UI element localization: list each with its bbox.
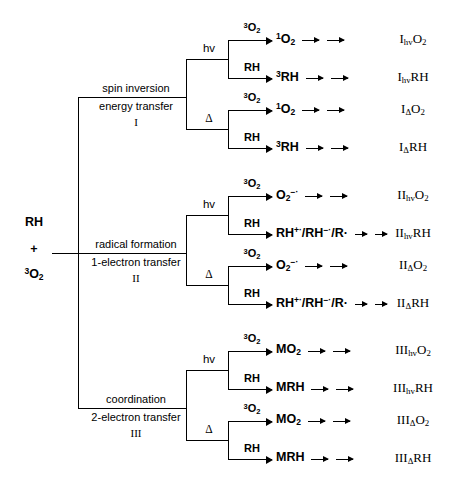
product-III-3: IIIΔRH bbox=[395, 450, 432, 466]
species-I-1: 3RH bbox=[276, 69, 299, 84]
reaction-tree-diagram: RH+3O2spin inversionenergy transferIhvΔ3… bbox=[0, 0, 463, 478]
transform-arrow-a-I-3 bbox=[306, 148, 323, 149]
product-I-3: IΔRH bbox=[399, 139, 427, 155]
species-I-3: 3RH bbox=[276, 139, 299, 154]
transform-arrow-b-I-0 bbox=[327, 40, 344, 41]
condition-hv-I: hv bbox=[203, 42, 215, 54]
reagent-oxygen-II-0: 3O2 bbox=[244, 177, 261, 191]
species-III-2: MO2 bbox=[276, 412, 301, 427]
reaction-arrow-III-0 bbox=[228, 351, 272, 352]
species-III-0: MO2 bbox=[276, 342, 301, 357]
branch-numeral-III: III bbox=[131, 426, 142, 441]
transform-arrow-b-I-3 bbox=[331, 148, 348, 149]
species-I-0: 1O2 bbox=[276, 31, 295, 47]
transform-arrow-b-III-3 bbox=[336, 459, 353, 460]
transform-arrow-a-III-3 bbox=[311, 459, 328, 460]
delta-connector-I bbox=[186, 129, 228, 130]
condition-split-line-I bbox=[186, 59, 187, 129]
reagent-split-line-hv-III bbox=[228, 351, 229, 389]
reaction-arrow-II-3 bbox=[228, 304, 272, 305]
reagent-substrate-II-1: RH bbox=[244, 217, 260, 229]
product-II-0: IIhvO2 bbox=[397, 187, 428, 203]
condition-hv-II: hv bbox=[203, 198, 215, 210]
condition-delta-III: Δ bbox=[205, 423, 212, 435]
species-I-2: 1O2 bbox=[276, 101, 295, 117]
reagent-oxygen-I-2: 3O2 bbox=[244, 91, 261, 105]
branch-name-line1-II: radical formation bbox=[95, 237, 176, 252]
transform-arrow-b-II-1 bbox=[375, 234, 387, 235]
species-III-1: MRH bbox=[276, 380, 304, 394]
reaction-arrow-I-1 bbox=[228, 78, 272, 79]
condition-delta-II: Δ bbox=[205, 268, 212, 280]
delta-connector-III bbox=[186, 440, 228, 441]
species-II-0: O2−· bbox=[276, 187, 298, 203]
condition-hv-III: hv bbox=[203, 353, 215, 365]
reaction-arrow-III-2 bbox=[228, 421, 272, 422]
reaction-arrow-I-0 bbox=[228, 40, 272, 41]
product-III-2: IIIΔO2 bbox=[397, 412, 430, 428]
hv-connector-III bbox=[186, 370, 228, 371]
product-III-0: IIIhvO2 bbox=[395, 342, 431, 358]
transform-arrow-b-II-0 bbox=[330, 196, 347, 197]
reagent-split-line-hv-II bbox=[228, 196, 229, 234]
condition-split-line-III bbox=[186, 370, 187, 440]
reagent-substrate-II-3: RH bbox=[244, 287, 260, 299]
branch-connector-III bbox=[78, 408, 186, 409]
root-stem-line bbox=[52, 253, 78, 254]
transform-arrow-b-III-2 bbox=[333, 421, 350, 422]
reaction-arrow-I-2 bbox=[228, 110, 272, 111]
branch-numeral-II: II bbox=[132, 271, 139, 286]
condition-split-line-II bbox=[186, 215, 187, 285]
branch-name-line2-III: 2-electron transfer bbox=[91, 410, 180, 425]
root-label-rh: RH bbox=[25, 215, 43, 229]
transform-arrow-b-III-1 bbox=[336, 389, 353, 390]
branch-numeral-I: I bbox=[134, 115, 138, 130]
species-II-1: RH+·/RH−·/R· bbox=[276, 225, 348, 240]
reagent-split-line-delta-III bbox=[228, 421, 229, 459]
transform-arrow-b-II-3 bbox=[375, 304, 387, 305]
reagent-oxygen-I-0: 3O2 bbox=[244, 21, 261, 35]
hv-connector-I bbox=[186, 59, 228, 60]
reagent-substrate-I-3: RH bbox=[244, 131, 260, 143]
branch-name-line2-II: 1-electron transfer bbox=[91, 255, 180, 270]
species-II-3: RH+·/RH−·/R· bbox=[276, 295, 348, 310]
hv-connector-II bbox=[186, 215, 228, 216]
branch-name-line1-I: spin inversion bbox=[102, 81, 169, 96]
reaction-arrow-II-2 bbox=[228, 266, 272, 267]
transform-arrow-a-II-2 bbox=[305, 266, 322, 267]
product-II-3: IIΔRH bbox=[397, 295, 429, 311]
reagent-split-line-delta-I bbox=[228, 110, 229, 148]
delta-connector-II bbox=[186, 285, 228, 286]
root-label-oxygen: 3O2 bbox=[24, 266, 43, 282]
reaction-arrow-II-0 bbox=[228, 196, 272, 197]
product-I-1: IhvRH bbox=[397, 69, 428, 85]
transform-arrow-b-I-2 bbox=[327, 110, 344, 111]
product-II-2: IIΔO2 bbox=[399, 257, 427, 273]
transform-arrow-b-I-1 bbox=[331, 78, 348, 79]
reagent-split-line-delta-II bbox=[228, 266, 229, 304]
transform-arrow-a-I-2 bbox=[302, 110, 319, 111]
species-II-2: O2−· bbox=[276, 257, 298, 273]
transform-arrow-a-I-0 bbox=[302, 40, 319, 41]
branch-name-line2-I: energy transfer bbox=[99, 99, 173, 114]
reagent-oxygen-II-2: 3O2 bbox=[244, 247, 261, 261]
reaction-arrow-III-1 bbox=[228, 389, 272, 390]
root-label-plus: + bbox=[30, 242, 37, 256]
reagent-oxygen-III-0: 3O2 bbox=[244, 332, 261, 346]
reaction-arrow-II-1 bbox=[228, 234, 272, 235]
reaction-arrow-III-3 bbox=[228, 459, 272, 460]
product-I-2: IΔO2 bbox=[401, 101, 425, 117]
product-II-1: IIhvRH bbox=[395, 225, 431, 241]
reagent-substrate-I-1: RH bbox=[244, 61, 260, 73]
branch-connector-I bbox=[78, 97, 186, 98]
reagent-split-line-hv-I bbox=[228, 40, 229, 78]
transform-arrow-a-II-0 bbox=[305, 196, 322, 197]
transform-arrow-b-II-2 bbox=[330, 266, 347, 267]
branch-name-line1-III: coordination bbox=[106, 392, 166, 407]
reaction-arrow-I-3 bbox=[228, 148, 272, 149]
transform-arrow-a-I-1 bbox=[306, 78, 323, 79]
branch-connector-II bbox=[78, 253, 186, 254]
transform-arrow-a-II-3 bbox=[355, 304, 367, 305]
product-III-1: IIIhvRH bbox=[393, 380, 433, 396]
transform-arrow-a-III-2 bbox=[308, 421, 325, 422]
